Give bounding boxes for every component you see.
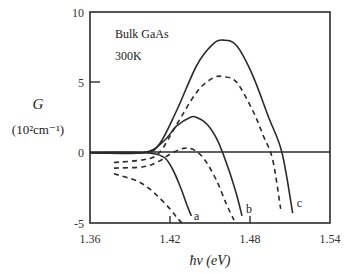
plot-frame [90,12,330,223]
y-tick-label: 0 [78,146,84,160]
series-b-dashed [114,148,234,220]
annotation-temperature: 300K [115,49,142,63]
series-c-solid [90,40,293,213]
series-a-dashed [114,174,182,223]
annotation-material: Bulk GaAs [115,27,169,41]
y-tick-label: 5 [78,76,84,90]
x-tick-label: 1.42 [160,232,181,246]
y-tick-label: -5 [74,217,84,231]
curve-label-b: b [246,202,252,216]
x-tick-label: 1.54 [320,232,341,246]
curve-label-a: a [194,209,200,223]
chart: 10 5 0 -5 1.36 1.42 1.48 1.54 G (10²cm⁻¹… [0,0,351,273]
series-a-solid [90,152,191,216]
curve-label-c: c [297,196,302,210]
x-tick-label: 1.36 [80,232,101,246]
curves [90,40,293,223]
y-axis-label: G [33,96,44,112]
y-axis-unit: (10²cm⁻¹) [12,122,64,137]
x-axis-label: ħν (eV) [190,253,231,269]
y-tick-label: 10 [72,6,84,20]
series-c-dashed [114,76,281,209]
x-tick-label: 1.48 [240,232,261,246]
